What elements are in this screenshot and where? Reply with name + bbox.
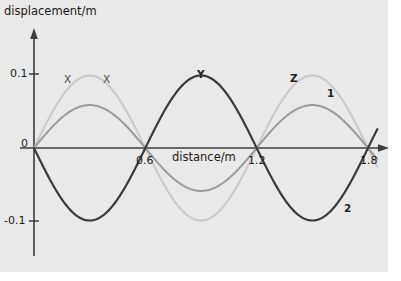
- curve-label-x-left: X: [64, 74, 71, 85]
- x-axis-arrowhead: [378, 144, 389, 152]
- y-axis-title: displacement/m: [4, 6, 97, 18]
- y-tick-label-0: 0: [21, 138, 28, 149]
- curve-label-1: 1: [327, 88, 334, 99]
- curve-label-z: Z: [290, 73, 298, 84]
- curve-label-x-right: X: [103, 74, 110, 85]
- y-axis-arrowhead: [30, 28, 38, 39]
- curve-label-y: Y: [197, 69, 205, 80]
- curve-label-2: 2: [344, 203, 351, 214]
- y-tick-label-neg0.1: -0.1: [4, 215, 25, 226]
- y-tick-label-0.1: 0.1: [10, 68, 28, 79]
- chart-canvas: [0, 0, 401, 281]
- x-tick-label-1.2: 1.2: [248, 155, 266, 166]
- axis-group: [20, 28, 389, 256]
- x-tick-label-1.8: 1.8: [360, 155, 378, 166]
- x-axis-title: distance/m: [172, 152, 236, 164]
- x-tick-label-0.6: 0.6: [136, 155, 154, 166]
- chart-figure: displacement/m distance/m 0.1 0 -0.1 0.6…: [0, 0, 401, 281]
